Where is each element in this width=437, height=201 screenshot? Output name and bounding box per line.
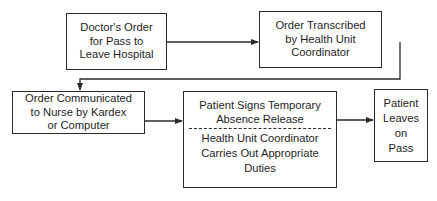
node-bottom-section: Health Unit Coordinator Carries Out Appr… bbox=[184, 131, 336, 176]
node-text: to Nurse by Kardex bbox=[31, 106, 127, 120]
node-text: for Pass to bbox=[90, 35, 143, 49]
node-text: by Health Unit bbox=[285, 33, 355, 47]
node-text: Patient Signs Temporary bbox=[199, 99, 321, 113]
node-order-communicated: Order Communicated to Nurse by Kardex or… bbox=[12, 91, 145, 134]
node-order-transcribed: Order Transcribed by Health Unit Coordin… bbox=[259, 11, 382, 68]
node-text: Coordinator bbox=[291, 46, 349, 60]
node-top-section: Patient Signs Temporary Absence Release bbox=[184, 99, 336, 126]
node-text: Patient bbox=[384, 96, 419, 111]
node-patient-signs: Patient Signs Temporary Absence Release … bbox=[183, 91, 337, 188]
node-text: Order Communicated bbox=[25, 92, 132, 106]
node-text: on bbox=[395, 126, 407, 141]
node-text: Pass bbox=[389, 141, 414, 156]
node-text: Doctor's Order bbox=[80, 21, 152, 35]
node-patient-leaves: Patient Leaves on Pass bbox=[374, 89, 428, 162]
node-text: Leaves bbox=[383, 111, 419, 126]
dashed-divider bbox=[189, 128, 332, 129]
node-text: Absence Release bbox=[216, 113, 304, 127]
node-text: Carries Out Appropriate bbox=[201, 146, 319, 161]
node-text: or Computer bbox=[47, 119, 109, 133]
node-doctors-order: Doctor's Order for Pass to Leave Hospita… bbox=[66, 13, 167, 70]
node-text: Health Unit Coordinator bbox=[202, 131, 319, 146]
node-text: Duties bbox=[244, 161, 276, 176]
node-text: Leave Hospital bbox=[79, 48, 153, 62]
node-text: Order Transcribed bbox=[275, 19, 365, 33]
